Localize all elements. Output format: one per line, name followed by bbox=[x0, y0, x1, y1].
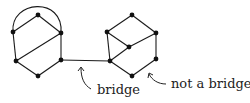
edge bbox=[13, 32, 16, 61]
bridge-diagram: bridge not a bridge bbox=[0, 0, 250, 103]
edge bbox=[129, 33, 156, 47]
edge bbox=[107, 32, 129, 47]
edge bbox=[16, 61, 38, 76]
bridge-edge bbox=[61, 60, 110, 61]
edge bbox=[16, 33, 61, 61]
node bbox=[36, 13, 41, 18]
nodes bbox=[11, 13, 159, 79]
right-graph bbox=[107, 15, 156, 76]
edge bbox=[110, 47, 129, 61]
node bbox=[105, 30, 110, 35]
curved-arrow-icon bbox=[81, 68, 91, 89]
curved-arrow-icon bbox=[149, 74, 166, 84]
node bbox=[59, 58, 64, 63]
node bbox=[127, 45, 132, 50]
node bbox=[108, 59, 113, 64]
bridge-annotation: bridge bbox=[78, 67, 140, 97]
node bbox=[59, 31, 64, 36]
node bbox=[11, 30, 16, 35]
edge bbox=[107, 32, 110, 61]
not-a-bridge-edge bbox=[132, 59, 156, 76]
node bbox=[154, 31, 159, 36]
left-arc-edge bbox=[13, 7, 61, 33]
node bbox=[154, 57, 159, 62]
bridge-label: bridge bbox=[97, 82, 140, 97]
node bbox=[130, 13, 135, 18]
edge bbox=[38, 15, 61, 33]
node bbox=[36, 74, 41, 79]
edge bbox=[132, 15, 156, 33]
not-bridge-annotation: not a bridge bbox=[148, 73, 250, 91]
edge bbox=[110, 61, 132, 76]
edge bbox=[38, 60, 61, 76]
edge bbox=[107, 15, 132, 32]
not-a-bridge-label: not a bridge bbox=[171, 76, 250, 91]
node bbox=[130, 74, 135, 79]
node bbox=[14, 59, 19, 64]
